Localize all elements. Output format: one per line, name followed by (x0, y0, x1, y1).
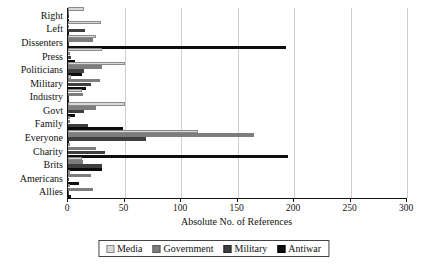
legend-swatch-antiwar (277, 245, 285, 253)
x-axis-tick-label: 150 (229, 203, 243, 214)
bar-allies-media (68, 184, 70, 187)
bar-allies-government (68, 188, 93, 191)
x-axis-tick (350, 198, 351, 202)
category-label-govt: Govt (43, 104, 63, 115)
bar-family-media (68, 116, 70, 119)
category-label-press: Press (42, 50, 63, 61)
x-axis-tick (124, 198, 125, 202)
bar-dissenters-media (68, 35, 96, 38)
category-label-family: Family (35, 118, 63, 129)
legend-label-military: Military (234, 243, 267, 254)
bar-press-military (68, 56, 71, 59)
category-label-right: Right (41, 9, 63, 20)
x-axis-tick-label: 100 (173, 203, 187, 214)
gridline (351, 8, 352, 198)
bar-dissenters-government (68, 38, 93, 41)
bar-military-government (68, 79, 100, 82)
bar-americans-government (68, 174, 91, 177)
legend-swatch-military (223, 245, 231, 253)
bar-industry-government (68, 93, 83, 96)
bar-everyone-government (68, 133, 254, 136)
x-axis-tick-label: 0 (65, 203, 70, 214)
x-axis-tick-label: 300 (399, 203, 413, 214)
bar-dissenters-military (68, 42, 69, 45)
category-label-politicians: Politicians (21, 64, 63, 75)
bar-politicians-military (68, 69, 84, 72)
x-axis-tick-label: 50 (119, 203, 129, 214)
x-axis-tick (237, 198, 238, 202)
bar-family-government (68, 120, 70, 123)
category-label-americans: Americans (20, 172, 63, 183)
legend-item-antiwar: Antiwar (277, 243, 321, 254)
bar-right-government (68, 11, 69, 14)
bar-govt-military (68, 110, 84, 113)
bar-charity-media (68, 143, 70, 146)
category-label-military: Military (30, 77, 63, 88)
plot-area (67, 8, 406, 198)
bar-brits-military (68, 164, 102, 167)
category-label-left: Left (46, 23, 63, 34)
bar-left-media (68, 21, 101, 24)
bar-left-government (68, 25, 69, 28)
gridline (125, 8, 126, 198)
bar-press-government (68, 52, 70, 55)
bar-charity-military (68, 151, 105, 154)
bar-brits-government (68, 160, 83, 163)
chart-legend: Media Government Military Antiwar (98, 240, 329, 257)
legend-item-government: Government (152, 243, 213, 254)
category-axis-labels: RightLeftDissentersPressPoliticiansMilit… (0, 0, 63, 274)
category-label-brits: Brits (44, 159, 63, 170)
bar-military-military (68, 83, 91, 86)
bar-govt-media (68, 102, 125, 105)
legend-label-antiwar: Antiwar (288, 243, 321, 254)
gridline (238, 8, 239, 198)
bar-americans-media (68, 170, 70, 173)
x-axis-tick (293, 198, 294, 202)
gridline (294, 8, 295, 198)
bar-brits-media (68, 157, 82, 160)
category-label-industry: Industry (30, 91, 63, 102)
bar-family-military (68, 124, 88, 127)
legend-item-military: Military (223, 243, 267, 254)
bar-right-military (68, 15, 69, 18)
x-axis-tick (67, 198, 68, 202)
bar-brits-antiwar (68, 168, 102, 171)
legend-swatch-government (152, 245, 160, 253)
bar-chart: RightLeftDissentersPressPoliticiansMilit… (0, 0, 427, 274)
gridline (181, 8, 182, 198)
bar-americans-military (68, 178, 69, 181)
bar-govt-government (68, 106, 96, 109)
x-axis-title: Absolute No. of References (67, 216, 406, 227)
bar-military-media (68, 75, 71, 78)
x-axis-tick-label: 250 (342, 203, 356, 214)
legend-item-media: Media (106, 243, 143, 254)
bar-everyone-media (68, 130, 198, 133)
bar-everyone-military (68, 137, 146, 140)
bar-industry-media (68, 89, 82, 92)
category-label-dissenters: Dissenters (21, 36, 63, 47)
legend-label-government: Government (163, 243, 213, 254)
x-axis-tick (180, 198, 181, 202)
category-label-charity: Charity (33, 145, 63, 156)
bar-left-military (68, 29, 85, 32)
bar-politicians-government (68, 65, 102, 68)
x-axis-tick (406, 198, 407, 202)
bar-press-media (68, 48, 102, 51)
legend-swatch-media (106, 245, 114, 253)
category-label-allies: Allies (39, 186, 63, 197)
bar-charity-antiwar (68, 155, 288, 158)
bar-industry-military (68, 96, 69, 99)
gridline (407, 8, 408, 198)
legend-label-media: Media (117, 243, 143, 254)
bar-right-media (68, 7, 84, 10)
bar-politicians-media (68, 62, 125, 65)
x-axis-tick-label: 200 (286, 203, 300, 214)
bar-charity-government (68, 147, 96, 150)
bar-allies-military (68, 191, 69, 194)
category-label-everyone: Everyone (25, 131, 63, 142)
